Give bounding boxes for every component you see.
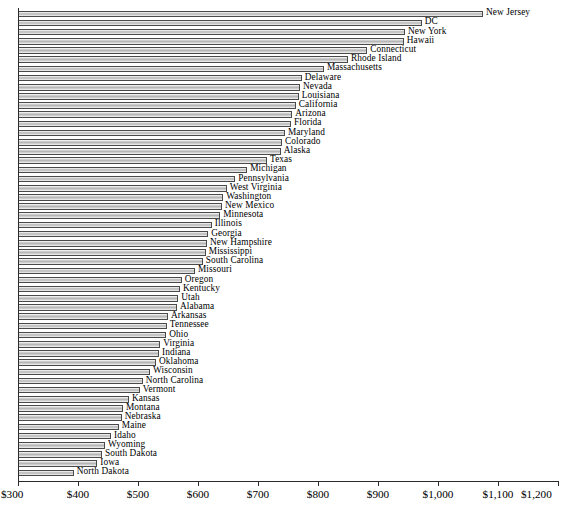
bar xyxy=(18,75,302,82)
bar xyxy=(18,111,292,118)
bar-row: Washington xyxy=(0,193,562,202)
bar-row: New York xyxy=(0,28,562,37)
bar xyxy=(18,185,227,192)
bar xyxy=(18,102,296,109)
bar-row: Montana xyxy=(0,404,562,413)
bar xyxy=(18,451,102,458)
bar-row: Illinois xyxy=(0,221,562,230)
bar xyxy=(18,167,247,174)
bar xyxy=(18,66,324,73)
bar-row: North Dakota xyxy=(0,469,562,478)
bar-row: Kentucky xyxy=(0,285,562,294)
bar-row: Oklahoma xyxy=(0,358,562,367)
bar-row: Arkansas xyxy=(0,312,562,321)
bar-row: California xyxy=(0,101,562,110)
bar-row: North Carolina xyxy=(0,377,562,386)
bar xyxy=(18,313,168,320)
bar xyxy=(18,157,267,164)
bar xyxy=(18,268,195,275)
bar xyxy=(18,148,281,155)
bar xyxy=(18,84,300,91)
x-axis-tick xyxy=(378,481,379,486)
x-axis-tick-label: $1,000 xyxy=(423,488,454,501)
bar-row: Arizona xyxy=(0,110,562,119)
x-axis-tick-label: $400 xyxy=(67,488,89,501)
x-axis-tick-label: $800 xyxy=(307,488,329,501)
x-axis-tick xyxy=(318,481,319,486)
bar-row: West Virginia xyxy=(0,184,562,193)
bar-row: Florida xyxy=(0,120,562,129)
bar xyxy=(18,378,143,385)
bar xyxy=(18,424,119,431)
bar-row: New Jersey xyxy=(0,10,562,19)
x-axis-tick xyxy=(258,481,259,486)
x-axis-tick xyxy=(198,481,199,486)
bar-row: Georgia xyxy=(0,230,562,239)
bar-row: Nebraska xyxy=(0,413,562,422)
bar-row: New Hampshire xyxy=(0,239,562,248)
bar xyxy=(18,203,222,210)
bar xyxy=(18,11,483,18)
bar-label: North Dakota xyxy=(77,466,129,477)
bar xyxy=(18,332,166,339)
bar-label: New Jersey xyxy=(486,7,530,18)
bar xyxy=(18,29,405,36)
bar-row: Alabama xyxy=(0,303,562,312)
bar xyxy=(18,47,367,54)
bar-row: Delaware xyxy=(0,74,562,83)
bar xyxy=(18,433,111,440)
bar xyxy=(18,359,156,366)
bar-chart: New JerseyDCNew YorkHawaiiConnecticutRho… xyxy=(0,0,562,505)
bar xyxy=(18,194,223,201)
bar-row: Missouri xyxy=(0,267,562,276)
bar-row: DC xyxy=(0,19,562,28)
bar xyxy=(18,323,167,330)
x-axis-tick xyxy=(498,481,499,486)
x-axis-tick xyxy=(78,481,79,486)
bar-row: Maryland xyxy=(0,129,562,138)
bar xyxy=(18,20,422,27)
bar-row: Indiana xyxy=(0,349,562,358)
x-axis-tick-label: $700 xyxy=(247,488,269,501)
bar-row: Ohio xyxy=(0,331,562,340)
bar xyxy=(18,387,140,394)
bar xyxy=(18,258,203,265)
bar xyxy=(18,295,178,302)
bar-row: Rhode Island xyxy=(0,55,562,64)
bar-row: South Dakota xyxy=(0,450,562,459)
plot-area: New JerseyDCNew YorkHawaiiConnecticutRho… xyxy=(0,0,562,481)
bar xyxy=(18,93,299,100)
y-axis-line xyxy=(18,8,19,482)
bar xyxy=(18,369,150,376)
x-axis-tick xyxy=(438,481,439,486)
bar xyxy=(18,341,160,348)
bar xyxy=(18,176,235,183)
bar xyxy=(18,396,129,403)
bar-row: Wyoming xyxy=(0,441,562,450)
bar xyxy=(18,130,285,137)
x-axis-tick-label: $600 xyxy=(187,488,209,501)
bar xyxy=(18,350,159,357)
bar xyxy=(18,286,180,293)
bar xyxy=(18,442,105,449)
bar-row: Colorado xyxy=(0,138,562,147)
bar-row: Massachusetts xyxy=(0,65,562,74)
bar-row: Wisconsin xyxy=(0,368,562,377)
bar-row: Virginia xyxy=(0,340,562,349)
x-axis-tick xyxy=(138,481,139,486)
bar-row: Maine xyxy=(0,423,562,432)
bar-row: Minnesota xyxy=(0,211,562,220)
bar xyxy=(18,121,291,128)
bar xyxy=(18,414,122,421)
bar xyxy=(18,231,208,238)
bar xyxy=(18,277,182,284)
x-axis-tick-label: $500 xyxy=(127,488,149,501)
bar-row: Connecticut xyxy=(0,46,562,55)
bar-row: Oregon xyxy=(0,276,562,285)
bar-row: Idaho xyxy=(0,432,562,441)
bar xyxy=(18,304,177,311)
x-axis-tick-label: $900 xyxy=(367,488,389,501)
bar xyxy=(18,38,404,45)
bar-row: Kansas xyxy=(0,395,562,404)
bar xyxy=(18,470,74,477)
